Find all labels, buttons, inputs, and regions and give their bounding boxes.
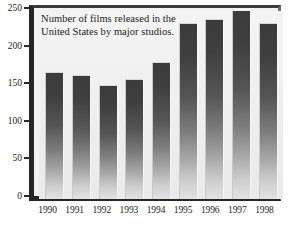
- bar-1993: [125, 79, 143, 199]
- y-axis-tick: 150: [8, 78, 29, 88]
- x-axis-label-1993: 1993: [115, 205, 142, 215]
- x-axis-label-1998: 1998: [251, 205, 278, 215]
- bar-1991: [72, 75, 90, 199]
- bar-slot: [94, 11, 121, 199]
- y-axis-tick-label: 200: [8, 41, 24, 51]
- bar-slot: [68, 11, 95, 199]
- bar-slot: [254, 11, 281, 199]
- x-axis-label-1995: 1995: [170, 205, 197, 215]
- chart-annotation-caption: Number of films released in the United S…: [41, 13, 191, 38]
- bar-slot: [121, 11, 148, 199]
- plot-area: [39, 11, 283, 199]
- x-axis-label-1990: 1990: [34, 205, 61, 215]
- bar-1996: [205, 19, 223, 199]
- y-axis-tick-label: 250: [8, 3, 24, 13]
- x-axis-label-1991: 1991: [61, 205, 88, 215]
- y-axis-tick: 200: [8, 41, 29, 51]
- bar-1995: [179, 23, 197, 199]
- bar-series: [39, 11, 283, 199]
- bar-1998: [259, 23, 277, 199]
- y-axis-tick-label: 50: [13, 153, 25, 163]
- y-axis-tick-label: 150: [8, 78, 24, 88]
- bar-slot: [148, 11, 175, 199]
- cropped-header-text: . .: [29, 0, 281, 4]
- y-axis: 050100150200250: [0, 5, 29, 201]
- x-axis-label-1997: 1997: [224, 205, 251, 215]
- bar-1997: [232, 11, 250, 199]
- y-axis-tick: 100: [8, 116, 29, 126]
- bar-chart-figure: . . 050100150200250 Number of films rele…: [0, 0, 289, 225]
- bar-1992: [99, 85, 117, 199]
- y-axis-tick: 0: [17, 191, 29, 201]
- x-axis: 199019911992199319941995199619971998: [34, 205, 278, 215]
- x-axis-label-1996: 1996: [197, 205, 224, 215]
- x-axis-label-1992: 1992: [88, 205, 115, 215]
- bar-slot: [228, 11, 255, 199]
- bar-1994: [152, 62, 170, 199]
- y-axis-tick: 50: [13, 153, 30, 163]
- y-axis-tick-label: 100: [8, 116, 24, 126]
- x-axis-label-1994: 1994: [142, 205, 169, 215]
- y-axis-tick-label: 0: [17, 191, 24, 201]
- bar-slot: [174, 11, 201, 199]
- y-axis-tick: 250: [8, 3, 29, 13]
- bar-1990: [45, 72, 63, 199]
- bar-slot: [201, 11, 228, 199]
- bar-slot: [41, 11, 68, 199]
